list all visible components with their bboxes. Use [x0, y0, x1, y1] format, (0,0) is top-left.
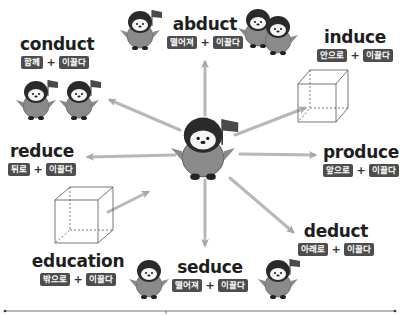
word-title: education — [28, 252, 128, 271]
word-produce: produce 앞으로+이끌다 — [318, 143, 404, 177]
arrow-induce — [235, 108, 305, 135]
diagram-canvas: conduct 함께+이끌다 abduct 떨어져+이끌다 induce 안으로… — [0, 0, 406, 315]
word-title: induce — [310, 28, 400, 47]
prefix-tag: 뒤로 — [8, 163, 30, 176]
root-tag: 이끌다 — [86, 273, 116, 286]
prefix-tag: 아래로 — [298, 243, 328, 256]
word-deduct: deduct 아래로+이끌다 — [296, 222, 376, 256]
root-tag: 이끌다 — [363, 49, 393, 62]
word-title: reduce — [6, 142, 78, 161]
prefix-tag: 앞으로 — [323, 164, 353, 177]
root-tag: 이끌다 — [59, 56, 89, 69]
prefix-tag: 안으로 — [317, 49, 347, 62]
cube-education — [55, 187, 113, 243]
word-abduct: abduct 떨어져+이끌다 — [165, 15, 245, 49]
root-tag: 이끌다 — [369, 164, 399, 177]
root-tag: 이끌다 — [344, 243, 374, 256]
penguin-conduct-2 — [59, 80, 101, 120]
word-induce: induce 안으로+이끌다 — [310, 28, 400, 62]
penguin-seduce — [129, 260, 169, 299]
word-education: education 밖으로+이끌다 — [28, 252, 128, 286]
word-title: produce — [318, 143, 404, 162]
center-penguin — [171, 118, 238, 180]
arrow-conduct — [110, 100, 180, 130]
penguin-conduct-1 — [16, 80, 58, 120]
word-conduct: conduct 함께+이끌다 — [20, 35, 90, 69]
root-tag: 이끌다 — [46, 163, 76, 176]
word-reduce: reduce 뒤로+이끌다 — [6, 142, 78, 176]
word-seduce: seduce 떨어져+이끌다 — [170, 258, 250, 292]
cube-induce — [298, 70, 348, 122]
arrow-deduct — [230, 178, 293, 232]
root-tag: 이끌다 — [218, 279, 248, 292]
word-title: conduct — [20, 35, 90, 54]
arrow-reduce — [88, 155, 175, 157]
prefix-tag: 떨어져 — [172, 279, 202, 292]
word-title: abduct — [165, 15, 245, 34]
prefix-tag: 함께 — [21, 56, 43, 69]
prefix-tag: 밖으로 — [40, 273, 70, 286]
word-title: deduct — [296, 222, 376, 241]
prefix-tag: 떨어져 — [167, 36, 197, 49]
arrow-produce — [240, 154, 315, 155]
penguin-abduct-left — [120, 10, 162, 50]
penguin-deduct — [258, 259, 300, 299]
word-title: seduce — [170, 258, 250, 277]
arrow-education — [108, 192, 148, 212]
root-tag: 이끌다 — [213, 36, 243, 49]
